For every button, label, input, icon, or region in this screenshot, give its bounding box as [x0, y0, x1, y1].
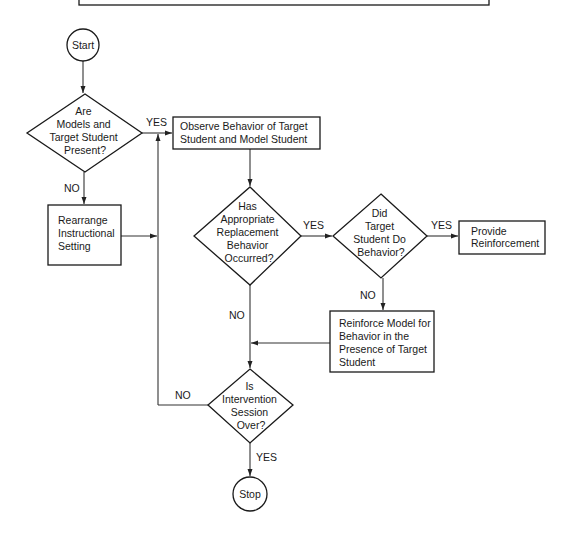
label-replacement-yes: YES	[303, 219, 324, 231]
decision-session-over: Is Intervention Session Over?	[208, 369, 293, 443]
flowchart: Start Are Models and Target Student Pres…	[0, 0, 572, 535]
label-models-no: NO	[64, 182, 80, 194]
label-replacement-no: NO	[229, 309, 245, 321]
process-provide-reinforcement: Provide Reinforcement	[459, 221, 545, 254]
label-target-no: NO	[360, 289, 376, 301]
process-observe-behavior: Observe Behavior of Target Student and M…	[173, 117, 320, 149]
stop-label: Stop	[239, 488, 261, 500]
label-target-yes: YES	[431, 219, 452, 231]
decision-target-did-behavior: Did Target Student Do Behavior?	[333, 194, 427, 278]
label-session-yes: YES	[256, 451, 277, 463]
start-label: Start	[72, 39, 94, 51]
decision-replacement-occurred: Has Appropriate Replacement Behavior Occ…	[194, 187, 301, 285]
decision-models-present: Are Models and Target Student Present?	[27, 94, 142, 172]
top-frame-box	[79, 0, 489, 5]
label-session-no: NO	[175, 389, 191, 401]
process-rearrange-setting: Rearrange Instructional Setting	[48, 205, 121, 265]
label-models-yes: YES	[146, 116, 167, 128]
start-node: Start	[67, 29, 99, 61]
stop-node: Stop	[233, 477, 267, 511]
process-reinforce-model: Reinforce Model for Behavior in the Pres…	[330, 311, 434, 372]
process-observe-text: Observe Behavior of Target Student and M…	[180, 120, 311, 145]
